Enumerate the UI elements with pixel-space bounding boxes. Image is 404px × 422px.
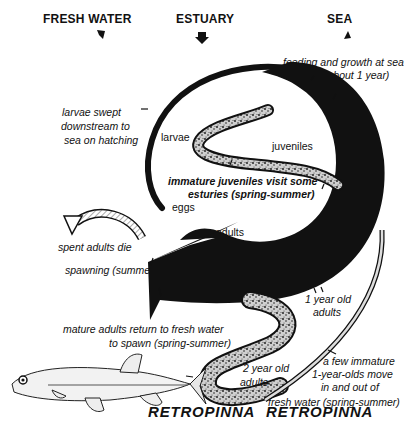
label-juveniles: juveniles — [272, 140, 313, 153]
fresh-water-arrow-icon — [97, 30, 105, 39]
label-larvae-swept-line3: sea on hatching — [64, 134, 138, 147]
label-mature-return-line2: to spawn (spring-summer) — [109, 337, 231, 350]
header-estuary: ESTUARY — [176, 12, 234, 26]
label-immature-juv-line1: immature juveniles visit some — [168, 175, 317, 188]
label-larvae-swept-line2: downstream to — [61, 120, 130, 133]
label-adults: adults — [216, 226, 244, 239]
label-mature-return-line1: mature adults return to fresh water — [63, 323, 224, 336]
label-spawning: spawning (summer) — [65, 264, 157, 277]
label-spent-adults: spent adults die — [58, 241, 132, 254]
label-eggs: eggs — [172, 201, 195, 214]
label-larvae: larvae — [161, 131, 190, 144]
header-sea: SEA — [327, 12, 352, 26]
species-name: RETROPINNA — [266, 403, 373, 420]
label-immature-juv-line2: esturies (spring-summer) — [188, 188, 315, 201]
label-feeding-line2: (about 1 year) — [324, 69, 389, 82]
label-few-immature-line2: 1-year-olds move — [312, 368, 393, 381]
species-genus: RETROPINNA — [148, 403, 255, 420]
label-two-year-line1: 2 year old — [243, 362, 289, 375]
label-one-year-line2: adults — [313, 306, 341, 319]
estuary-arrow-icon — [195, 32, 209, 44]
label-feeding-line1: feeding and growth at sea — [283, 56, 404, 69]
header-fresh-water: FRESH WATER — [43, 12, 132, 26]
label-few-immature-line1: a few immature — [323, 355, 395, 368]
label-few-immature-line3: in and out of — [321, 381, 379, 394]
label-one-year-line1: 1 year old — [305, 293, 351, 306]
sea-arrow-icon — [344, 31, 351, 39]
label-two-year-line2: adults — [240, 376, 268, 389]
label-larvae-swept-line1: larvae swept — [62, 106, 121, 119]
